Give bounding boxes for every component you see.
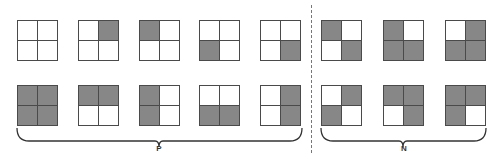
group-label-n: N <box>401 144 407 153</box>
group-label-p: P <box>156 144 161 153</box>
group-braces <box>0 0 502 161</box>
